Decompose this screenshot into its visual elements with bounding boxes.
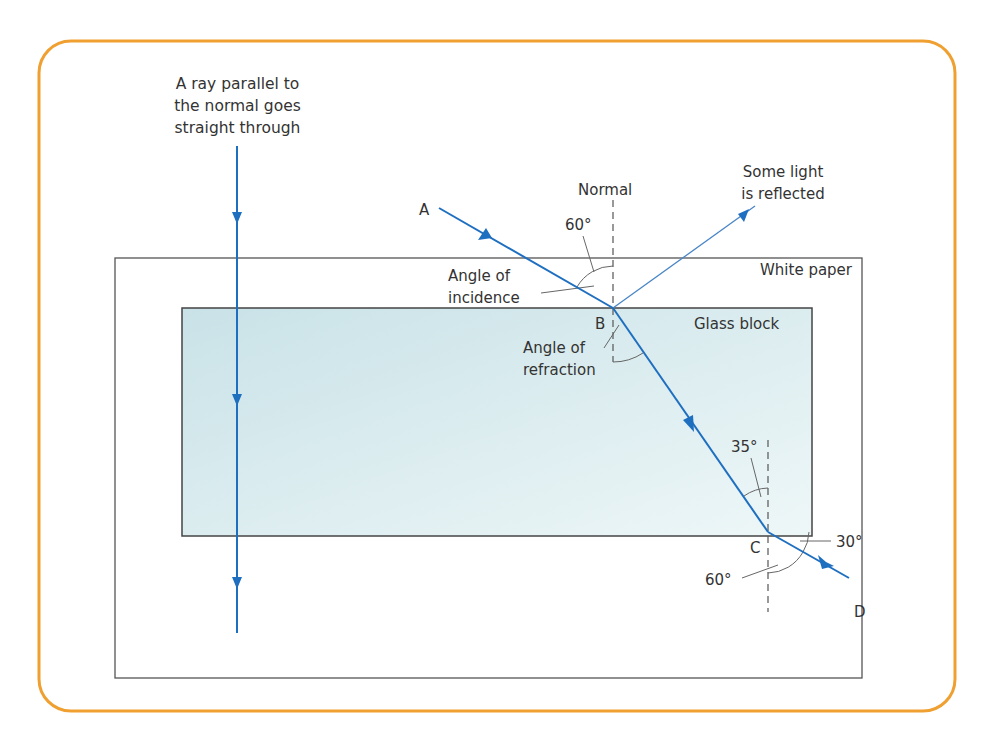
incidence-line-2: incidence	[448, 287, 520, 309]
point-d-label: D	[854, 602, 866, 622]
glass-block	[182, 308, 812, 536]
refraction-label: Angle of refraction	[523, 337, 596, 381]
point-a-label: A	[419, 200, 429, 220]
normal-label: Normal	[578, 180, 632, 200]
refraction-line-2: refraction	[523, 359, 596, 381]
reflected-line-2: is reflected	[728, 183, 838, 205]
note-line-1: A ray parallel to	[160, 73, 315, 95]
angle-surface-value: 30°	[836, 532, 863, 552]
note-line-2: the normal goes	[160, 95, 315, 117]
reflected-line-1: Some light	[728, 161, 838, 183]
incidence-line-1: Angle of	[448, 265, 520, 287]
angle-inside-value: 35°	[731, 437, 758, 457]
note-line-3: straight through	[160, 117, 315, 139]
incidence-label: Angle of incidence	[448, 265, 520, 309]
arrow-down-icon	[232, 212, 242, 224]
arrow-reflected-icon	[738, 209, 749, 222]
point-b-label: B	[595, 314, 605, 334]
arrow-incident-icon	[478, 228, 492, 240]
white-paper-label: White paper	[760, 260, 852, 280]
refraction-diagram	[0, 0, 985, 734]
point-c-label: C	[750, 538, 760, 558]
straight-ray-note: A ray parallel to the normal goes straig…	[160, 73, 315, 139]
glass-block-label: Glass block	[694, 314, 779, 334]
refraction-line-1: Angle of	[523, 337, 596, 359]
angle-incidence-value: 60°	[565, 215, 592, 235]
reflected-note: Some light is reflected	[728, 161, 838, 205]
angle-emergent-value: 60°	[705, 570, 732, 590]
